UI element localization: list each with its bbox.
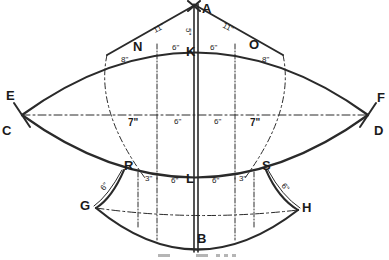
label-s: S	[262, 158, 271, 173]
caption-blur	[158, 254, 236, 257]
dim-mid-left-inner: 6"	[174, 117, 181, 126]
dim-mid-right-outer: 7"	[250, 117, 261, 128]
dim-ao: 11"	[221, 21, 235, 34]
dim-nk: 6"	[172, 43, 179, 52]
label-g: G	[80, 198, 90, 213]
label-f: F	[377, 90, 385, 105]
label-k: K	[186, 44, 196, 59]
line-an	[107, 5, 195, 55]
dim-ls-outer: 3"	[239, 174, 246, 183]
label-r: R	[124, 158, 134, 173]
label-d: D	[374, 123, 383, 138]
dim-ls-inner: 6"	[212, 176, 219, 185]
line-gh	[96, 208, 298, 216]
dim-ak: 5"	[184, 28, 193, 35]
label-n: N	[133, 39, 142, 54]
label-l: L	[186, 171, 194, 186]
lower-arc	[22, 115, 368, 178]
dim-rl-outer: 3"	[145, 174, 152, 183]
dim-sh: 6"	[279, 182, 291, 193]
dim-o-below: 8"	[262, 55, 269, 64]
label-c: C	[2, 123, 12, 138]
dim-rl-inner: 6"	[171, 176, 178, 185]
label-o: O	[249, 37, 259, 52]
dim-mid-left-outer: 7"	[128, 117, 139, 128]
label-b: B	[197, 231, 206, 246]
upper-arc	[22, 53, 368, 116]
dim-mid-right-inner: 6"	[214, 117, 221, 126]
diagram-canvas: A B C D E F G H K L N O R S 11" 11" 5" 6…	[0, 0, 389, 260]
pattern-diagram: A B C D E F G H K L N O R S 11" 11" 5" 6…	[0, 0, 389, 260]
dim-n-below: 8"	[121, 55, 128, 64]
label-h: H	[302, 200, 311, 215]
label-e: E	[6, 88, 15, 103]
dim-ko: 6"	[210, 43, 217, 52]
label-a: A	[202, 1, 212, 16]
